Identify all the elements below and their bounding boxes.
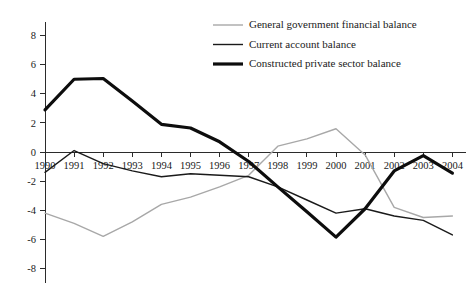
chart-figure: 86420-2-4-6-8 19901991199219931994199519… (0, 0, 474, 304)
series-line-general-government-financial-balance (45, 129, 452, 237)
x-axis-tick-label: 1994 (151, 160, 173, 171)
line-chart-svg: 86420-2-4-6-8 19901991199219931994199519… (0, 0, 474, 304)
series-line-constructed-private-sector-balance (45, 79, 452, 238)
y-axis-tick-label: -2 (27, 176, 36, 187)
y-axis-tick-label: 6 (31, 59, 36, 70)
x-axis-tick-label: 1996 (209, 160, 230, 171)
y-axis-tick-label: -4 (27, 205, 36, 216)
chart-legend: General government financial balanceCurr… (213, 18, 417, 69)
x-axis-tick-label: 2000 (326, 160, 347, 171)
y-axis-tick-label: 2 (31, 118, 36, 129)
y-axis-tick-label: -8 (27, 263, 36, 274)
x-axis-tick-label: 1999 (296, 160, 317, 171)
y-axis-tick-label: 4 (31, 88, 37, 99)
x-axis-tick-label: 1995 (180, 160, 201, 171)
legend-label: General government financial balance (249, 18, 417, 30)
x-axis-tick-label: 1991 (64, 160, 85, 171)
y-axis-tick-label: 8 (31, 30, 36, 41)
legend-label: Constructed private sector balance (249, 57, 401, 69)
y-axis-tick-label: -6 (27, 234, 36, 245)
y-axis-tick-label: 0 (31, 147, 36, 158)
legend-label: Current account balance (249, 38, 356, 50)
x-axis-tick-label: 1998 (267, 160, 288, 171)
y-axis-tick-group: 86420-2-4-6-8 (27, 30, 45, 274)
